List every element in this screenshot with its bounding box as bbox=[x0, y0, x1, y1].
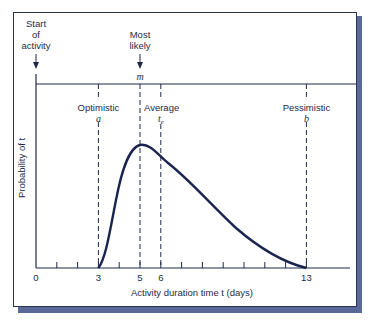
start-arrow-icon bbox=[33, 62, 39, 69]
y-axis-label: Probability of t bbox=[16, 138, 27, 199]
x-tick-label-3: 3 bbox=[96, 272, 101, 283]
x-tick-label-6: 6 bbox=[158, 272, 163, 283]
most-likely-label-line2: likely bbox=[129, 40, 150, 51]
pessimistic-label: Pessimistic bbox=[283, 102, 331, 113]
pert-beta-distribution-diagram: Start of activity Most likely m Opt bbox=[0, 0, 374, 320]
most-likely-label-line1: Most bbox=[130, 29, 151, 40]
x-axis-ticks bbox=[57, 262, 307, 268]
x-axis-label: Activity duration time t (days) bbox=[131, 287, 253, 298]
te-symbol: te bbox=[158, 113, 164, 126]
b-symbol: b bbox=[304, 113, 309, 124]
a-symbol: a bbox=[96, 113, 101, 124]
start-label-line2: of bbox=[32, 29, 40, 40]
x-tick-label-5: 5 bbox=[137, 272, 142, 283]
average-label: Average bbox=[144, 102, 179, 113]
start-label-line1: Start bbox=[26, 18, 46, 29]
x-tick-label-13: 13 bbox=[301, 272, 312, 283]
x-tick-label-0: 0 bbox=[33, 272, 38, 283]
most-likely-arrow-icon bbox=[137, 62, 143, 69]
m-symbol: m bbox=[136, 71, 143, 82]
dashed-reference-lines bbox=[98, 84, 306, 268]
beta-distribution-curve bbox=[98, 145, 306, 268]
te-symbol-subscript: e bbox=[161, 118, 164, 126]
start-label-line3: activity bbox=[21, 40, 50, 51]
optimistic-label: Optimistic bbox=[78, 102, 120, 113]
